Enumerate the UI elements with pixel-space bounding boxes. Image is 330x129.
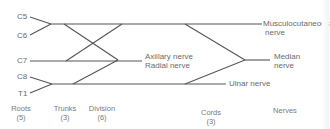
- root-c8-line: [30, 77, 52, 84]
- column-roots-label: Roots: [6, 104, 36, 113]
- lateral-cord-to-median: [185, 24, 245, 60]
- lower-posterior-division: [73, 60, 118, 84]
- column-cords-label: Cords: [196, 108, 226, 117]
- middle-anterior-division: [66, 24, 122, 61]
- column-division-count: (6): [84, 113, 120, 122]
- root-c5-line: [30, 17, 51, 24]
- ulnar-nerve-label: Ulnar nerve: [229, 79, 270, 88]
- column-roots-count: (5): [6, 113, 36, 122]
- column-cords-count: (3): [196, 117, 226, 126]
- root-t1-line: [30, 84, 52, 93]
- column-nerves-label: Nerves: [268, 106, 302, 115]
- column-trunks: Trunks (3): [49, 104, 81, 122]
- page-edge-shadow: [322, 0, 329, 129]
- musculocutaneous-nerve-label-line2: nerve: [265, 28, 285, 37]
- median-nerve-label-line2: nerve: [274, 61, 294, 70]
- radial-nerve-label: Radial nerve: [145, 61, 190, 70]
- column-trunks-count: (3): [49, 113, 81, 122]
- column-division: Division (6): [84, 104, 120, 122]
- root-label-t1: T1: [18, 89, 27, 98]
- musculocutaneous-nerve-label-line1: Musculocutaneous: [263, 19, 330, 28]
- root-label-c8: C8: [17, 72, 27, 81]
- column-roots: Roots (5): [6, 104, 36, 122]
- root-label-c7: C7: [17, 56, 27, 65]
- median-nerve-label-line1: Median: [274, 52, 300, 61]
- column-trunks-label: Trunks: [49, 104, 81, 113]
- root-c6-line: [30, 24, 51, 35]
- column-cords: Cords (3): [196, 108, 226, 126]
- axillary-nerve-label: Axillary nerve: [145, 52, 193, 61]
- root-label-c6: C6: [17, 31, 27, 40]
- column-nerves: Nerves: [268, 106, 302, 115]
- upper-posterior-division: [64, 24, 118, 60]
- root-label-c5: C5: [17, 12, 27, 21]
- column-division-label: Division: [84, 104, 120, 113]
